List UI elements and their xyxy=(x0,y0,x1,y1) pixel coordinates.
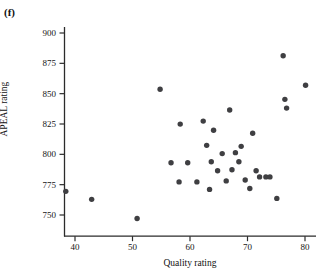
y-tick-label: 850 xyxy=(26,89,56,98)
data-point xyxy=(303,83,308,88)
x-tick-label: 80 xyxy=(301,243,310,252)
data-point xyxy=(89,197,94,202)
data-point xyxy=(257,174,262,179)
data-point xyxy=(194,179,199,184)
y-tick-marks xyxy=(60,33,65,215)
data-point xyxy=(247,186,252,191)
data-point-group xyxy=(63,53,308,221)
data-point xyxy=(274,196,279,201)
scatter-plot-figure: (f) 750775800825850875900 4050607080 Qua… xyxy=(0,0,319,279)
data-point xyxy=(284,105,289,110)
data-point xyxy=(220,151,225,156)
data-point xyxy=(227,107,232,112)
x-tick-marks xyxy=(75,236,305,241)
axis-lines xyxy=(64,27,316,237)
data-point xyxy=(134,216,139,221)
y-axis-title: APEAL rating xyxy=(0,123,10,137)
data-point xyxy=(185,160,190,165)
data-point xyxy=(176,179,181,184)
data-point xyxy=(63,189,68,194)
x-tick-label: 60 xyxy=(186,243,195,252)
data-point xyxy=(157,87,162,92)
data-point xyxy=(224,178,229,183)
data-point xyxy=(267,174,272,179)
data-point xyxy=(215,168,220,173)
data-point xyxy=(250,131,255,136)
data-point xyxy=(282,97,287,102)
x-tick-label: 70 xyxy=(243,243,252,252)
y-tick-label: 825 xyxy=(26,120,56,129)
x-tick-label: 50 xyxy=(128,243,137,252)
data-point xyxy=(229,167,234,172)
y-tick-label: 800 xyxy=(26,150,56,159)
y-tick-label: 750 xyxy=(26,211,56,220)
plot-area: 750775800825850875900 4050607080 xyxy=(0,0,319,279)
data-point xyxy=(236,159,241,164)
data-point xyxy=(211,127,216,132)
data-point xyxy=(253,168,258,173)
y-tick-label: 900 xyxy=(26,29,56,38)
data-point xyxy=(204,143,209,148)
data-point xyxy=(233,150,238,155)
x-tick-label: 40 xyxy=(71,243,80,252)
y-tick-label: 875 xyxy=(26,59,56,68)
data-point xyxy=(207,187,212,192)
x-axis-title: Quality rating xyxy=(163,258,216,269)
plot-canvas xyxy=(0,0,319,279)
data-point xyxy=(168,160,173,165)
data-point xyxy=(209,159,214,164)
y-tick-label: 775 xyxy=(26,180,56,189)
data-point xyxy=(280,53,285,58)
data-point xyxy=(201,118,206,123)
data-point xyxy=(238,144,243,149)
data-point xyxy=(243,177,248,182)
data-point xyxy=(178,121,183,126)
